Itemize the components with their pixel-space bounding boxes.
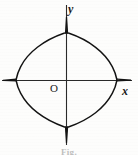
astroid-figure: y x O Fig. — [0, 0, 138, 155]
x-axis-label: x — [122, 85, 128, 97]
y-axis-label: y — [68, 3, 73, 15]
astroid-curve — [14, 31, 117, 132]
astroid-plot-svg — [0, 0, 138, 155]
figure-caption: Fig. — [0, 148, 138, 155]
origin-label: O — [50, 83, 58, 94]
